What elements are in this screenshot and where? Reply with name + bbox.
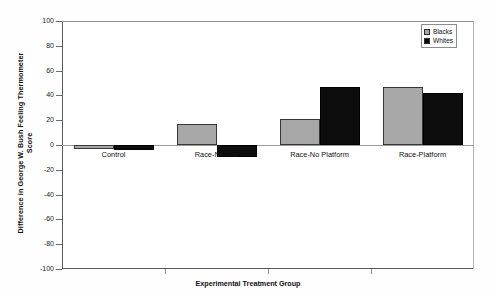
legend-label-blacks: Blacks <box>433 28 452 36</box>
y-tick-label: -20 <box>28 166 54 173</box>
y-tick <box>56 21 62 22</box>
bar-chart-figure: Difference in George W. Bush Feeling The… <box>0 0 496 296</box>
y-tick <box>56 120 62 121</box>
x-tick <box>268 269 269 274</box>
y-tick-label: 80 <box>28 42 54 49</box>
y-tick-label: 60 <box>28 67 54 74</box>
bar-blacks-race-no-platform <box>280 119 320 145</box>
x-category-label: Race-Platform <box>371 150 474 159</box>
bar-whites-race-platform <box>423 93 463 145</box>
y-tick-label: -40 <box>28 191 54 198</box>
y-tick <box>56 170 62 171</box>
x-tick <box>165 269 166 274</box>
plot-top-border <box>62 21 474 22</box>
legend-swatch-whites-icon <box>424 38 430 44</box>
legend-label-whites: Whites <box>433 37 453 45</box>
y-tick <box>56 269 62 270</box>
y-tick-label: -80 <box>28 240 54 247</box>
y-tick-label: 0 <box>28 141 54 148</box>
y-tick <box>56 195 62 196</box>
y-tick <box>56 46 62 47</box>
y-tick-label: -60 <box>28 215 54 222</box>
legend: Blacks Whites <box>421 24 457 48</box>
y-tick <box>56 244 62 245</box>
x-tick <box>371 269 372 274</box>
y-axis-title-line1: Difference in George W. Bush Feeling The… <box>16 53 25 234</box>
legend-item-blacks: Blacks <box>424 27 453 36</box>
bar-blacks-control <box>74 145 114 149</box>
legend-swatch-blacks-icon <box>424 29 430 35</box>
legend-item-whites: Whites <box>424 36 453 45</box>
y-tick-label: -100 <box>28 265 54 272</box>
x-axis-title: Experimental Treatment Group <box>0 279 496 288</box>
y-tick-label: 100 <box>28 17 54 24</box>
y-tick <box>56 219 62 220</box>
bar-blacks-race-neutral <box>177 124 217 145</box>
y-tick <box>56 95 62 96</box>
x-category-label: Control <box>62 150 165 159</box>
bar-whites-race-no-platform <box>320 87 360 145</box>
y-tick-label: 20 <box>28 116 54 123</box>
x-category-label: Race-Neutral <box>165 150 268 159</box>
y-tick-label: 40 <box>28 91 54 98</box>
x-category-label: Race-No Platform <box>268 150 371 159</box>
y-tick <box>56 71 62 72</box>
bar-blacks-race-platform <box>383 87 423 145</box>
